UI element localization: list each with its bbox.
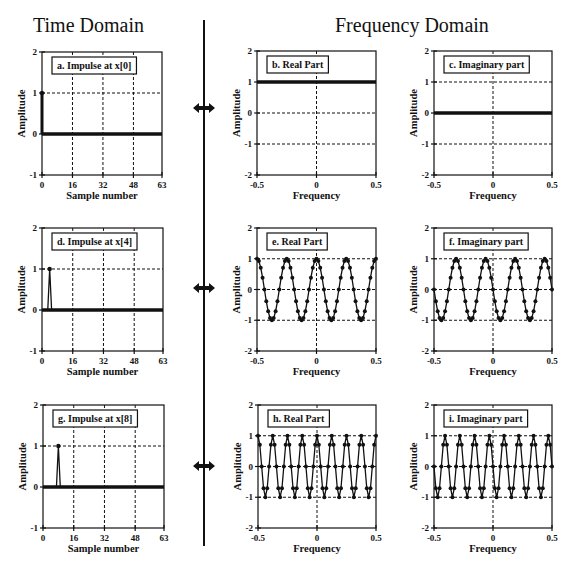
chart-title: c. Imaginary part (449, 59, 525, 70)
data-point (469, 465, 473, 469)
data-point (290, 276, 294, 280)
data-point (445, 443, 449, 447)
data-point (354, 299, 358, 303)
data-point (374, 257, 378, 261)
data-point (294, 299, 298, 303)
data-point (339, 486, 343, 490)
data-point (471, 316, 475, 320)
data-point (532, 434, 536, 438)
data-point (356, 465, 360, 469)
data-point (302, 443, 306, 447)
data-point (441, 443, 445, 447)
data-point (504, 443, 508, 447)
data-point (352, 288, 356, 292)
x-tick-label: -0.5 (250, 180, 265, 190)
data-point (337, 495, 341, 499)
impulse-point (47, 267, 51, 271)
data-point (326, 465, 330, 469)
data-point (287, 259, 291, 263)
data-point (539, 495, 543, 499)
data-point (341, 465, 345, 469)
chart-title: h. Real Part (273, 413, 325, 424)
x-tick-label: 0.5 (370, 180, 382, 190)
data-point (365, 299, 369, 303)
y-tick-label: 0 (425, 462, 430, 472)
chart-title-box: f. Imaginary part (444, 233, 528, 250)
data-point (474, 299, 478, 303)
data-point (508, 276, 512, 280)
data-point (259, 266, 263, 270)
y-tick-label: 0 (33, 129, 38, 139)
x-axis-label: Sample number (67, 366, 139, 377)
data-point (473, 309, 477, 313)
data-point (449, 276, 453, 280)
data-point (278, 495, 282, 499)
data-point (271, 434, 275, 438)
y-tick-label: 0 (33, 305, 38, 315)
chart-title: a. Impulse at x[0] (57, 60, 131, 71)
data-point (515, 259, 519, 263)
data-point (260, 465, 264, 469)
data-point (452, 486, 456, 490)
data-point (462, 288, 466, 292)
data-point (487, 434, 491, 438)
data-point (489, 443, 493, 447)
data-point (319, 465, 323, 469)
data-point (537, 486, 541, 490)
data-point (304, 465, 308, 469)
data-point (436, 495, 440, 499)
data-point (438, 486, 442, 490)
data-point (348, 266, 352, 270)
data-point (346, 259, 350, 263)
data-point (326, 309, 330, 313)
data-point (315, 434, 319, 438)
y-tick-label: -1 (30, 170, 38, 180)
data-point (500, 443, 504, 447)
y-tick-label: -2 (246, 523, 254, 533)
x-tick-label: 0 (41, 533, 46, 543)
data-point (267, 465, 271, 469)
chart-d: -1012016324863Sample numberAmplituded. I… (16, 223, 168, 377)
data-point (343, 443, 347, 447)
data-point (311, 465, 315, 469)
data-point (320, 276, 324, 280)
y-tick-label: 2 (33, 47, 38, 57)
data-point (289, 465, 293, 469)
y-tick-label: -2 (422, 170, 430, 180)
chart-title: b. Real Part (272, 59, 324, 70)
x-tick-label: 0.5 (546, 533, 558, 543)
y-axis-label: Amplitude (232, 442, 243, 490)
data-point (432, 288, 436, 292)
data-point (480, 266, 484, 270)
data-point (370, 465, 374, 469)
chart-e: -2-1012-0.500.5FrequencyAmplitudee. Real… (231, 223, 382, 377)
y-tick-label: -1 (245, 139, 253, 149)
y-tick-label: -2 (422, 523, 430, 533)
data-point (526, 486, 530, 490)
x-tick-label: 0 (314, 356, 319, 366)
data-point (352, 495, 356, 499)
data-point (374, 434, 378, 438)
x-axis-label: Sample number (68, 543, 140, 554)
y-axis-label: Amplitude (17, 442, 28, 490)
x-tick-label: 32 (99, 356, 109, 366)
y-tick-label: 2 (248, 223, 253, 233)
data-point (511, 486, 515, 490)
x-tick-label: 0.5 (546, 180, 558, 190)
chart-title-box: h. Real Part (268, 410, 329, 427)
data-point (544, 443, 548, 447)
data-point (287, 443, 291, 447)
data-point (273, 443, 277, 447)
data-point (274, 309, 278, 313)
data-point (495, 495, 499, 499)
x-axis-label: Frequency (469, 190, 517, 201)
chart-title: g. Impulse at x[8] (58, 413, 132, 424)
y-tick-label: 2 (249, 400, 254, 410)
data-point (324, 299, 328, 303)
x-tick-label: 16 (68, 356, 78, 366)
y-tick-label: 0 (425, 285, 430, 295)
data-point (309, 276, 313, 280)
y-tick-label: -1 (422, 492, 430, 502)
x-tick-label: 48 (130, 356, 140, 366)
data-point (504, 299, 508, 303)
